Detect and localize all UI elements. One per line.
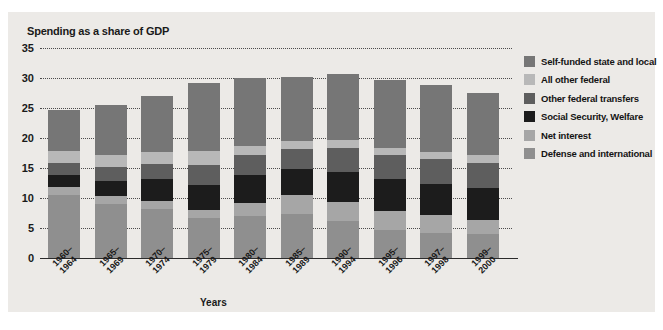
chart-title: Spending as a share of GDP [27,25,169,37]
y-tick-label: 0 [28,252,34,264]
bar-segment [141,164,173,179]
bar-segment [420,184,452,216]
bar-segment [234,78,266,146]
y-tick-label: 5 [28,222,34,234]
gridline [40,78,512,79]
bar-segment [281,149,313,168]
bar-segment [467,93,499,155]
bar-segment [420,159,452,184]
bar-segment [188,165,220,185]
legend-swatch-icon [524,111,535,122]
bar-segment [374,80,406,147]
bar-segment [234,203,266,216]
bar-segment [188,151,220,165]
legend-swatch-icon [524,148,535,159]
y-tick-label: 35 [22,42,34,54]
bar-segment [48,110,80,151]
bar-segment [327,172,359,202]
bar-segment [234,175,266,203]
bar-segment [48,163,80,175]
legend-swatch-icon [524,93,535,104]
y-tick-label: 30 [22,72,34,84]
legend-item[interactable]: All other federal [524,71,658,89]
bar-segment [374,155,406,179]
x-axis-label: Years [200,297,227,308]
bar-segment [467,155,499,162]
bar-segment [374,179,406,211]
bar-segment [467,163,499,188]
bar-segment [281,195,313,214]
bar-segment [234,146,266,156]
legend-swatch-icon [524,74,535,85]
bar-segment [95,105,127,155]
bar-segment [234,155,266,175]
legend-item[interactable]: Self-funded state and local [524,52,658,70]
legend-item[interactable]: Other federal transfers [524,89,658,107]
legend-item[interactable]: Social Security, Welfare [524,108,658,126]
legend-swatch-icon [524,56,535,67]
chart-legend: Self-funded state and localAll other fed… [524,52,658,163]
bar-segment [327,148,359,172]
bar-segment [95,181,127,197]
bar-segment [420,85,452,152]
legend-label: Other federal transfers [541,93,639,104]
bar-segment [141,152,173,165]
bar-segment [374,148,406,155]
bar-segment [188,210,220,218]
bar-segment [327,74,359,139]
bar-segment [95,196,127,204]
bar-segment [327,140,359,148]
bar [48,110,80,258]
gridline [40,48,512,49]
bar-segment [327,202,359,221]
bar-segment [48,151,80,163]
bar-segment [281,141,313,149]
chart-figure: Spending as a share of GDP 0510152025303… [0,0,663,330]
bar-segment [141,201,173,209]
bar-segment [467,188,499,220]
plot-area: 05101520253035 1960–19641965–19691970–19… [40,48,512,258]
bar-segment [95,167,127,180]
legend-label: Defense and international [541,148,652,159]
legend-label: Social Security, Welfare [541,111,643,122]
bar-segment [95,155,127,168]
legend-label: Self-funded state and local [541,56,656,67]
y-tick-label: 25 [22,102,34,114]
y-tick-label: 20 [22,132,34,144]
bar-segment [141,179,173,201]
bar-segment [48,187,80,195]
bar-segment [420,152,452,159]
bar-segment [188,185,220,210]
y-tick-label: 15 [22,162,34,174]
legend-item[interactable]: Net interest [524,126,658,144]
bar-segment [48,175,80,187]
bar-segment [141,96,173,152]
bar-segment [281,77,313,141]
legend-item[interactable]: Defense and international [524,145,658,163]
legend-label: Net interest [541,130,591,141]
bar-segment [188,83,220,151]
y-tick-label: 10 [22,192,34,204]
legend-label: All other federal [541,74,610,85]
bar-segment [281,169,313,195]
legend-swatch-icon [524,130,535,141]
